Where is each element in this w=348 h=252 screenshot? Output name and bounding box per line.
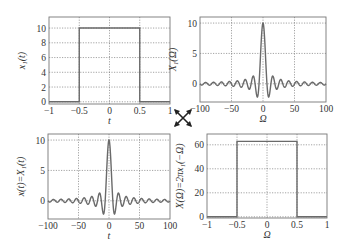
- y-tick-label: 10: [188, 19, 198, 29]
- data-line: [200, 23, 326, 97]
- x-tick-label: 1: [325, 220, 330, 230]
- y-axis-label: X(Ω)=2πx₁(−Ω): [174, 143, 186, 210]
- y-axis-label: x₁(t): [16, 51, 28, 70]
- y-tick-label: 0: [41, 97, 46, 107]
- x-tick-label: −1: [44, 106, 54, 116]
- chart-top-left: −1−0.500.510246810tx₁(t): [16, 17, 173, 126]
- x-tick-label: 0.5: [134, 106, 146, 116]
- x-tick-label: 50: [135, 221, 145, 231]
- y-tick-label: 40: [195, 164, 205, 174]
- figure: −1−0.500.510246810tx₁(t)−100−50050100051…: [0, 0, 348, 252]
- y-tick-label: 20: [195, 188, 205, 198]
- y-tick-label: 0: [192, 79, 197, 89]
- x-tick-label: −50: [71, 221, 86, 231]
- y-tick-label: 5: [192, 49, 197, 59]
- duality-arrows-icon: [174, 109, 192, 127]
- y-tick-label: 0: [199, 212, 204, 222]
- x-tick-label: 50: [290, 104, 300, 114]
- y-tick-label: 5: [40, 166, 45, 176]
- y-tick-label: 6: [41, 53, 46, 63]
- y-tick-label: 4: [41, 68, 46, 78]
- y-tick-label: 10: [36, 136, 46, 146]
- x-tick-label: −50: [224, 104, 239, 114]
- chart-top-right: −100−500501000510ΩX₁(Ω): [167, 17, 333, 124]
- y-axis-label: x(t)=X₁(t): [15, 156, 27, 197]
- y-axis-label: X₁(Ω): [167, 47, 179, 72]
- x-tick-label: −100: [190, 104, 210, 114]
- y-tick-label: 60: [195, 140, 205, 150]
- chart-bottom-right: −1−0.500.510204060ΩX(Ω)=2πx₁(−Ω): [174, 134, 330, 240]
- x-axis-label: Ω: [263, 229, 270, 240]
- y-tick-label: 2: [41, 83, 46, 93]
- chart-bottom-left: −100−500501000510tx(t)=X₁(t): [15, 134, 177, 241]
- x-tick-label: −0.5: [228, 220, 245, 230]
- data-line: [48, 140, 170, 214]
- x-tick-label: −0.5: [71, 106, 88, 116]
- y-tick-label: 8: [41, 38, 46, 48]
- x-tick-label: −100: [38, 221, 58, 231]
- y-tick-label: 10: [37, 24, 47, 34]
- x-axis-label: t: [108, 115, 111, 126]
- x-tick-label: 100: [163, 221, 178, 231]
- x-axis-label: Ω: [259, 113, 266, 124]
- x-tick-label: 1: [168, 106, 173, 116]
- x-tick-label: 0.5: [291, 220, 303, 230]
- x-tick-label: 100: [319, 104, 334, 114]
- y-tick-label: 0: [40, 196, 45, 206]
- x-axis-label: t: [108, 230, 111, 241]
